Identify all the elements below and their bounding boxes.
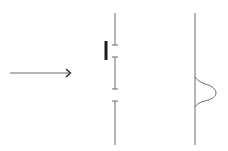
diagram-svg	[0, 0, 228, 151]
incoming-arrow	[10, 69, 71, 77]
detection-screen	[195, 13, 216, 145]
which-path-detector	[105, 41, 108, 60]
intensity-peak	[195, 77, 216, 107]
slit-barrier	[112, 13, 118, 145]
diagram-canvas	[0, 0, 228, 151]
